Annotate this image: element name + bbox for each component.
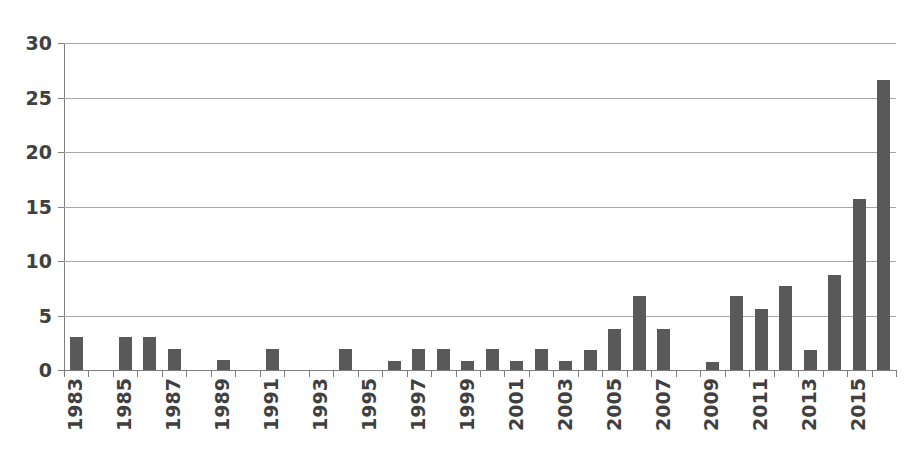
x-tick-mark-0 <box>64 370 65 377</box>
x-tick-mark-4 <box>162 370 163 377</box>
x-tick-mark-18 <box>504 370 505 377</box>
x-tick-label-2015: 2015 <box>849 378 868 431</box>
x-tick-mark-17 <box>480 370 481 377</box>
bar-1986 <box>143 337 156 370</box>
x-tick-mark-5 <box>186 370 187 377</box>
bar-2005 <box>608 329 621 370</box>
bar-1997 <box>412 349 425 370</box>
bar-2011 <box>755 309 768 370</box>
x-tick-label-1991: 1991 <box>262 378 281 431</box>
x-tick-mark-11 <box>333 370 334 377</box>
bar-1987 <box>168 349 181 370</box>
bar-2002 <box>535 349 548 370</box>
bar-2016 <box>877 80 890 370</box>
bar-chart: 051015202530 198319851987198919911993199… <box>0 0 918 454</box>
y-tick-label-15: 15 <box>6 197 52 216</box>
bar-1985 <box>119 337 132 370</box>
x-tick-label-1995: 1995 <box>360 378 379 431</box>
x-tick-label-1989: 1989 <box>213 378 232 431</box>
x-tick-mark-26 <box>700 370 701 377</box>
y-tick-label-20: 20 <box>6 143 52 162</box>
bar-2012 <box>779 286 792 370</box>
x-tick-mark-20 <box>553 370 554 377</box>
x-tick-mark-21 <box>578 370 579 377</box>
bar-1989 <box>217 360 230 370</box>
bar-2007 <box>657 329 670 370</box>
x-tick-mark-32 <box>847 370 848 377</box>
x-tick-label-2011: 2011 <box>751 378 770 431</box>
x-tick-label-1987: 1987 <box>164 378 183 431</box>
x-tick-mark-10 <box>309 370 310 377</box>
bar-1999 <box>461 361 474 370</box>
y-tick-label-25: 25 <box>6 88 52 107</box>
x-tick-label-1999: 1999 <box>458 378 477 431</box>
y-tick-label-5: 5 <box>6 306 52 325</box>
bar-1996 <box>388 361 401 370</box>
bar-2009 <box>706 362 719 370</box>
x-tick-mark-9 <box>284 370 285 377</box>
x-tick-label-2003: 2003 <box>556 378 575 431</box>
x-tick-mark-28 <box>749 370 750 377</box>
x-tick-mark-3 <box>137 370 138 377</box>
x-tick-mark-22 <box>602 370 603 377</box>
x-tick-mark-15 <box>431 370 432 377</box>
x-tick-mark-12 <box>358 370 359 377</box>
x-tick-mark-33 <box>872 370 873 377</box>
bar-2014 <box>828 275 841 370</box>
y-tick-label-30: 30 <box>6 34 52 53</box>
x-tick-label-2001: 2001 <box>507 378 526 431</box>
y-tick-label-10: 10 <box>6 252 52 271</box>
x-tick-label-1983: 1983 <box>66 378 85 431</box>
x-tick-mark-34 <box>896 370 897 377</box>
x-tick-mark-6 <box>211 370 212 377</box>
bar-2006 <box>633 296 646 370</box>
x-tick-mark-31 <box>823 370 824 377</box>
x-tick-mark-30 <box>798 370 799 377</box>
bar-2013 <box>804 350 817 370</box>
bar-1983 <box>70 337 83 370</box>
y-tick-label-0: 0 <box>6 361 52 380</box>
x-tick-label-2007: 2007 <box>654 378 673 431</box>
x-tick-mark-2 <box>113 370 114 377</box>
bar-2003 <box>559 361 572 370</box>
x-tick-mark-14 <box>407 370 408 377</box>
bar-1998 <box>437 349 450 370</box>
x-tick-label-2013: 2013 <box>800 378 819 431</box>
x-tick-label-1997: 1997 <box>409 378 428 431</box>
x-tick-mark-13 <box>382 370 383 377</box>
x-tick-mark-23 <box>627 370 628 377</box>
bar-series <box>64 43 896 370</box>
bar-2001 <box>510 361 523 370</box>
plot-area <box>64 43 896 370</box>
bar-2010 <box>730 296 743 370</box>
x-tick-mark-1 <box>88 370 89 377</box>
x-tick-mark-19 <box>529 370 530 377</box>
x-tick-label-1993: 1993 <box>311 378 330 431</box>
bar-2015 <box>853 199 866 370</box>
x-tick-mark-29 <box>774 370 775 377</box>
x-tick-label-2005: 2005 <box>605 378 624 431</box>
x-tick-mark-27 <box>725 370 726 377</box>
x-tick-label-1985: 1985 <box>115 378 134 431</box>
bar-1994 <box>339 349 352 370</box>
x-tick-mark-16 <box>456 370 457 377</box>
x-tick-mark-24 <box>651 370 652 377</box>
x-tick-mark-25 <box>676 370 677 377</box>
x-tick-mark-8 <box>260 370 261 377</box>
x-tick-label-2009: 2009 <box>702 378 721 431</box>
x-tick-mark-7 <box>235 370 236 377</box>
bar-2004 <box>584 350 597 370</box>
bar-2000 <box>486 349 499 370</box>
bar-1991 <box>266 349 279 370</box>
